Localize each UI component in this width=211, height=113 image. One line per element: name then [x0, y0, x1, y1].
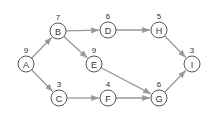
node-label: G — [155, 94, 162, 104]
node-d: D6 — [100, 12, 116, 38]
nodes-layer: A9B7C3D6E9F4G6H5I3 — [18, 12, 200, 106]
node-b: B7 — [50, 13, 66, 39]
node-label: C — [56, 94, 63, 104]
edge-a-c — [32, 70, 53, 92]
graph-diagram: A9B7C3D6E9F4G6H5I3 — [0, 0, 211, 113]
edge-b-e — [64, 36, 87, 58]
node-label: H — [156, 26, 163, 36]
node-weight: 9 — [24, 46, 29, 55]
node-weight: 6 — [157, 80, 162, 89]
edge-g-i — [165, 70, 186, 92]
node-label: A — [23, 60, 29, 70]
node-weight: 5 — [157, 12, 162, 21]
node-c: C3 — [51, 80, 67, 106]
edge-b-d — [66, 30, 99, 31]
node-f: F4 — [100, 80, 116, 106]
node-a: A9 — [18, 46, 34, 72]
node-weight: 3 — [57, 80, 62, 89]
node-label: B — [55, 27, 61, 37]
edge-h-i — [165, 36, 186, 58]
node-label: I — [191, 60, 194, 70]
node-label: F — [105, 94, 111, 104]
node-h: H5 — [151, 12, 167, 38]
node-weight: 7 — [56, 13, 61, 22]
node-weight: 6 — [106, 12, 111, 21]
node-label: E — [91, 60, 97, 70]
node-weight: 3 — [190, 46, 195, 55]
node-g: G6 — [151, 80, 167, 106]
node-i: I3 — [184, 46, 200, 72]
node-weight: 9 — [92, 46, 97, 55]
node-weight: 4 — [106, 80, 111, 89]
edge-a-b — [32, 37, 52, 58]
node-e: E9 — [86, 46, 102, 72]
node-label: D — [105, 26, 112, 36]
